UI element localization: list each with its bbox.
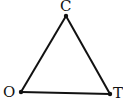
vertex-points [19,14,112,96]
vertex-point-o [19,90,23,94]
edge-o-t [21,92,110,94]
edge-c-o [21,16,66,92]
edge-t-c [66,16,110,94]
vertex-label-t: T [113,84,123,99]
vertex-point-t [108,92,112,96]
vertex-label-c: C [60,0,71,15]
triangle-diagram: C O T [0,0,123,99]
vertex-label-o: O [3,83,15,99]
triangle-edges [21,16,110,94]
